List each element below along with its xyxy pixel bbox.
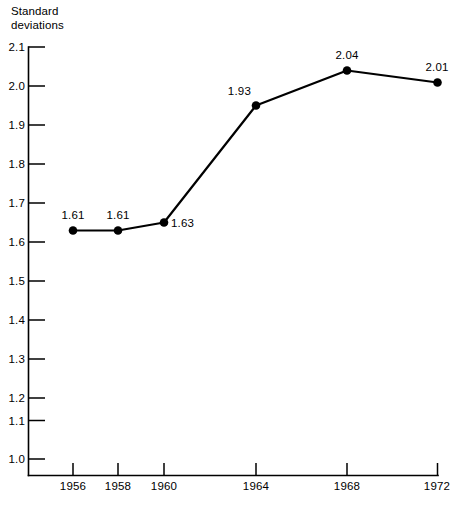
y-tick-label-1-0: 1.0	[8, 453, 25, 465]
y-tick-label-1-6: 1.6	[8, 236, 25, 248]
data-label-1956: 1.61	[61, 209, 84, 221]
x-tick-label-1958: 1958	[105, 480, 131, 492]
data-point-1968[interactable]	[343, 66, 352, 75]
y-tick-label-2-1: 2.1	[8, 41, 25, 53]
data-label-1958: 1.61	[106, 209, 129, 221]
y-tick-label-1-7: 1.7	[8, 197, 25, 209]
y-tick-label-2-0: 2.0	[8, 80, 25, 92]
line-chart-plot: 2.1 2.0 1.9 1.8 1.7 1.6 1.5 1.4 1.3 1.2 …	[0, 0, 463, 507]
data-point-1960[interactable]	[160, 218, 169, 227]
data-point-1964[interactable]	[252, 101, 261, 110]
y-tick-label-1-3: 1.3	[8, 353, 25, 365]
x-tick-label-1956: 1956	[60, 480, 86, 492]
x-axis-group: 1956 1958 1960 1964 1968 1972	[29, 463, 451, 492]
y-tick-label-1-2: 1.2	[8, 392, 25, 404]
data-label-1968: 2.04	[335, 49, 359, 61]
x-tick-label-1964: 1964	[243, 480, 270, 492]
data-label-1964: 1.93	[228, 85, 251, 97]
data-label-1960: 1.63	[171, 217, 194, 229]
data-label-1972: 2.01	[425, 61, 448, 73]
series-polyline	[73, 71, 438, 231]
y-tick-label-1-4: 1.4	[8, 314, 25, 326]
y-axis-group: 2.1 2.0 1.9 1.8 1.7 1.6 1.5 1.4 1.3 1.2 …	[8, 41, 45, 476]
y-tick-label-1-5: 1.5	[8, 275, 25, 287]
chart-container: Standarddeviations 2.1 2.0 1.9 1.8 1.7 1…	[0, 0, 463, 507]
y-tick-label-1-8: 1.8	[8, 158, 25, 170]
data-point-1956[interactable]	[69, 226, 78, 235]
x-tick-label-1960: 1960	[151, 480, 177, 492]
y-tick-label-1-1: 1.1	[8, 415, 25, 427]
data-point-1958[interactable]	[114, 226, 123, 235]
data-point-1972[interactable]	[433, 78, 442, 87]
x-tick-label-1968: 1968	[334, 480, 360, 492]
y-tick-label-1-9: 1.9	[8, 119, 25, 131]
x-tick-label-1972: 1972	[424, 480, 450, 492]
